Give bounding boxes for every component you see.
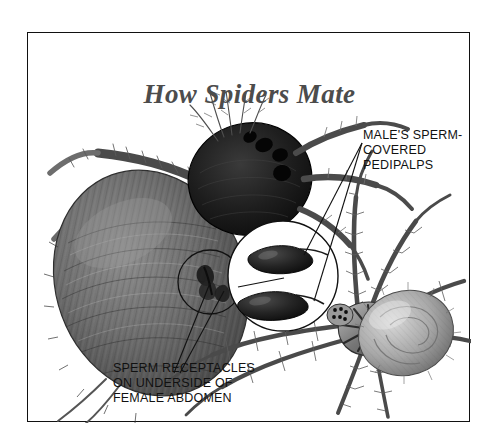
callout-male-line-3: PEDIPALPS	[363, 158, 462, 173]
magnified-pedipalp-circle	[228, 221, 338, 331]
figure-title: How Spiders Mate	[28, 79, 471, 110]
leader-male-1	[304, 143, 362, 255]
callout-female-line-2: ON UNDERSIDE OF	[113, 376, 255, 391]
leader-epigynum-to-magnified	[238, 278, 284, 287]
leader-female-1	[174, 283, 210, 373]
female-cephalothorax	[178, 91, 412, 315]
leader-male-2	[314, 143, 362, 301]
illustration-page: How Spiders Mate MALE'S SPERM- COVERED P…	[0, 0, 496, 442]
callout-male-pedipalps: MALE'S SPERM- COVERED PEDIPALPS	[363, 128, 462, 173]
leader-lines	[174, 143, 362, 373]
callout-female-line-1: SPERM RECEPTACLES	[113, 361, 255, 376]
callout-female-receptacles: SPERM RECEPTACLES ON UNDERSIDE OF FEMALE…	[113, 361, 255, 406]
callout-male-line-1: MALE'S SPERM-	[363, 128, 462, 143]
callout-female-line-3: FEMALE ABDOMEN	[113, 391, 255, 406]
illustration-frame: How Spiders Mate MALE'S SPERM- COVERED P…	[27, 32, 470, 422]
epigynum-circle	[178, 250, 242, 314]
callout-male-line-2: COVERED	[363, 143, 462, 158]
